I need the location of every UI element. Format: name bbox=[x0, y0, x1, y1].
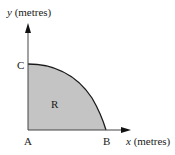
region-r-label: R bbox=[51, 98, 59, 110]
x-axis-label: x (metres) bbox=[125, 135, 171, 148]
point-c-label: C bbox=[17, 59, 24, 71]
point-b-label: B bbox=[103, 135, 110, 147]
point-a-label: A bbox=[24, 135, 32, 147]
y-axis-label: y (metres) bbox=[6, 6, 52, 19]
y-axis-arrow-icon bbox=[25, 23, 31, 33]
x-axis-arrow-icon bbox=[121, 127, 131, 133]
diagram-canvas: y (metres) x (metres) C A B R bbox=[0, 0, 175, 155]
